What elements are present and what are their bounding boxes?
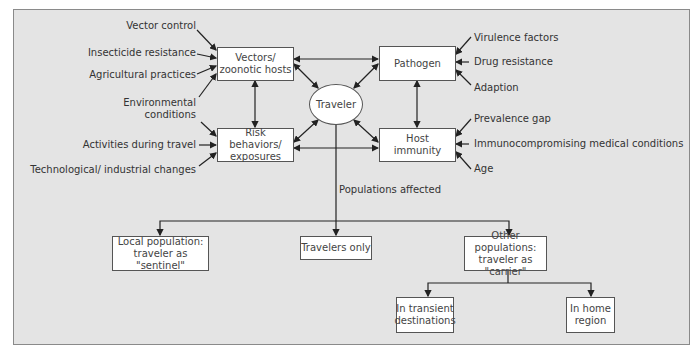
factor-insecticide-resistance: Insecticide resistance	[88, 47, 196, 59]
node-local-population: Local population: traveler as "sentinel"	[112, 236, 209, 271]
node-home-region: In home region	[566, 297, 615, 333]
node-pathogen: Pathogen	[379, 46, 456, 81]
label-populations-affected: Populations affected	[339, 184, 441, 196]
factor-agricultural-practices: Agricultural practices	[89, 69, 196, 81]
node-vectors: Vectors/ zoonotic hosts	[217, 47, 294, 81]
factor-environmental-conditions: Environmental conditions	[123, 97, 196, 121]
factor-drug-resistance: Drug resistance	[474, 56, 553, 68]
node-travelers-only: Travelers only	[300, 236, 372, 260]
factor-activities-during-travel: Activities during travel	[83, 139, 196, 151]
factor-technological-changes: Technological/ industrial changes	[30, 164, 196, 176]
node-other-populations: Other populations: traveler as "carrier"	[464, 236, 547, 271]
node-host-immunity: Host immunity	[379, 128, 456, 162]
factor-virulence: Virulence factors	[474, 32, 558, 44]
factor-prevalence-gap: Prevalence gap	[474, 113, 551, 125]
factor-adaption: Adaption	[474, 82, 519, 94]
factor-immunocompromising: Immunocompromising medical conditions	[474, 138, 683, 150]
node-risk-behaviors: Risk behaviors/ exposures	[217, 128, 294, 162]
factor-vector-control: Vector control	[126, 20, 196, 32]
node-traveler: Traveler	[309, 84, 363, 125]
factor-age: Age	[474, 163, 493, 175]
node-transient-destinations: In transient destinations	[396, 297, 454, 333]
